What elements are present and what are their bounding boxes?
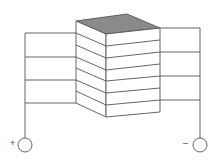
positive-terminal: [18, 138, 32, 152]
negative-terminal: [193, 138, 207, 152]
layer-stack: [76, 14, 160, 117]
capacitor-diagram: + –: [0, 0, 217, 161]
right-electrode-leads: [160, 28, 200, 138]
left-electrode-leads: [25, 33, 76, 138]
negative-symbol: –: [183, 138, 188, 148]
positive-symbol: +: [10, 138, 15, 148]
